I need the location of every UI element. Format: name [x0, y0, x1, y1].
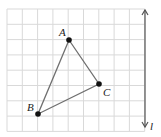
- grid: [7, 9, 145, 131]
- vertex-c-label: C: [103, 86, 111, 98]
- vertex-c-point: [96, 81, 102, 87]
- vertex-b-point: [35, 111, 41, 117]
- vertex-a-label: A: [58, 26, 66, 38]
- geometry-figure: ABC l: [0, 0, 161, 137]
- vertex-b-label: B: [27, 101, 34, 113]
- vertex-a-point: [66, 37, 72, 43]
- line-l: l: [142, 10, 153, 132]
- line-l-label: l: [150, 120, 153, 132]
